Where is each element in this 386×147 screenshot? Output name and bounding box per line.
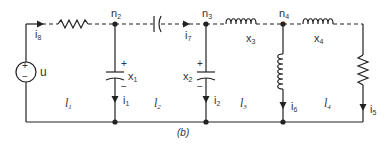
- arrow-i1-icon: [112, 96, 119, 103]
- node-bottom-2-dot: [203, 119, 208, 124]
- state-label-x3: x3: [246, 33, 255, 45]
- figure-caption: (b): [177, 128, 189, 138]
- loop-label-l1: l1: [65, 97, 72, 111]
- source-minus-sign: −: [22, 72, 28, 82]
- arrow-i2-icon: [203, 96, 210, 103]
- node-label-n2: n2: [111, 8, 121, 20]
- loop-label-l2: l2: [154, 97, 161, 111]
- state-label-x2: x2: [183, 71, 192, 83]
- inductor-x3-icon: [226, 19, 256, 24]
- x1-minus-sign: −: [121, 82, 127, 92]
- arrow-i7-icon: [183, 21, 190, 28]
- arrow-i5-icon: [360, 104, 367, 111]
- state-label-x4: x4: [314, 33, 323, 45]
- current-label-i1: i1: [123, 95, 129, 107]
- node-bottom-1-dot: [112, 119, 117, 124]
- node-label-n4: n4: [279, 8, 289, 20]
- x2-plus-sign: +: [197, 59, 203, 69]
- inductor-x4-icon: [303, 19, 333, 24]
- current-label-i6: i6: [291, 101, 297, 113]
- circuit-diagram: [0, 0, 386, 147]
- node-bottom-3-dot: [280, 119, 285, 124]
- state-label-x1: x1: [128, 71, 137, 83]
- arrow-i6-icon: [280, 102, 287, 109]
- inductor-l6-icon: [278, 54, 283, 89]
- current-label-i2: i2: [214, 95, 220, 107]
- node-n3-dot: [203, 21, 208, 26]
- current-label-i7: i7: [185, 30, 191, 42]
- resistor-r5-icon: [358, 55, 368, 85]
- node-label-n3: n3: [202, 8, 212, 20]
- x2-minus-sign: −: [197, 82, 203, 92]
- source-label-u: u: [40, 66, 47, 78]
- loop-label-l3: l3: [240, 97, 247, 111]
- source-plus-sign: +: [22, 61, 28, 71]
- node-n2-dot: [112, 21, 117, 26]
- arrow-i8-icon: [37, 21, 44, 28]
- node-n4-dot: [280, 21, 285, 26]
- capacitor-c7-plate-b: [159, 16, 161, 32]
- current-label-i5: i5: [370, 104, 376, 116]
- x1-plus-sign: +: [121, 59, 127, 69]
- loop-label-l4: l4: [324, 97, 331, 111]
- current-label-i8: i8: [35, 29, 41, 41]
- resistor-r8-icon: [58, 20, 88, 28]
